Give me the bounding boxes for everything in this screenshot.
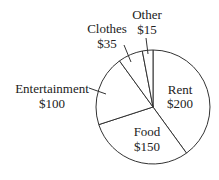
label-rent-name: Rent — [168, 82, 193, 97]
label-food-name: Food — [134, 124, 161, 139]
label-food-value: $150 — [134, 139, 160, 154]
pie-chart: Rent $200 Food $150 Entertainment $100 C… — [0, 0, 219, 180]
label-other-value: $15 — [137, 22, 157, 37]
label-other-name: Other — [132, 7, 162, 22]
label-entertainment-name: Entertainment — [15, 81, 89, 96]
label-rent-value: $200 — [167, 96, 193, 111]
label-clothes-value: $35 — [97, 36, 117, 51]
label-clothes-name: Clothes — [87, 21, 127, 36]
label-entertainment-value: $100 — [39, 96, 65, 111]
